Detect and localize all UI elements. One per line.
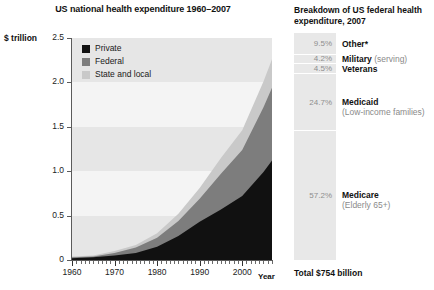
x-tick-major (157, 261, 158, 266)
x-tick-major (242, 261, 243, 266)
breakdown-label: Other* (342, 39, 434, 49)
x-tick-minor (187, 261, 188, 264)
x-tick-minor (268, 261, 269, 264)
y-tick-label: 2.0 (42, 77, 64, 86)
x-tick-minor (178, 261, 179, 264)
breakdown-label: Military (serving) (342, 54, 434, 64)
x-tick-minor (132, 261, 133, 264)
breakdown-label-name: Military (342, 54, 372, 64)
breakdown-label: Medicare(Elderly 65+) (342, 190, 434, 210)
x-tick-minor (195, 261, 196, 264)
x-tick-minor (136, 261, 137, 264)
y-axis-title: $ trillion (4, 33, 37, 43)
legend-label: State and local (95, 70, 151, 79)
y-tick-label: 0 (42, 255, 64, 264)
breakdown-title: Breakdown of US federal health expenditu… (294, 5, 432, 27)
x-tick-minor (76, 261, 77, 264)
x-tick-minor (204, 261, 205, 264)
legend-label: Federal (95, 57, 124, 66)
x-tick-minor (183, 261, 184, 264)
x-tick-label: 1980 (148, 267, 167, 277)
y-axis-line (71, 38, 72, 260)
x-tick-minor (217, 261, 218, 264)
y-tick (67, 127, 71, 128)
breakdown-percent: 57.2% (294, 191, 332, 200)
x-tick-minor (234, 261, 235, 264)
breakdown-label-name: Veterans (342, 64, 377, 74)
x-tick-minor (123, 261, 124, 264)
breakdown-percent: 4.5% (294, 64, 332, 73)
x-tick-minor (221, 261, 222, 264)
x-tick-minor (106, 261, 107, 264)
x-axis-title: Year (258, 272, 275, 281)
x-tick-minor (166, 261, 167, 264)
x-tick-minor (246, 261, 247, 264)
x-tick-minor (140, 261, 141, 264)
x-tick-minor (161, 261, 162, 264)
breakdown-total: Total $754 billion (294, 268, 362, 278)
y-tick-label: 1.5 (42, 122, 64, 131)
x-tick-minor (98, 261, 99, 264)
y-tick (67, 38, 71, 39)
x-tick-minor (110, 261, 111, 264)
y-tick (67, 171, 71, 172)
breakdown-label: Medicaid(Low-income families) (342, 97, 434, 117)
x-tick-label: 1990 (190, 267, 209, 277)
x-tick-minor (102, 261, 103, 264)
y-tick (67, 82, 71, 83)
legend-item: Private (82, 43, 151, 54)
national-health-expenditure-chart: US national health expenditure 1960–2007… (0, 0, 286, 290)
x-tick-minor (170, 261, 171, 264)
x-tick-minor (153, 261, 154, 264)
breakdown-label-name: Medicaid (342, 97, 378, 107)
legend-item: Federal (82, 56, 151, 67)
y-tick-label: 2.5 (42, 33, 64, 42)
x-tick-minor (119, 261, 120, 264)
x-tick-minor (212, 261, 213, 264)
x-tick-minor (89, 261, 90, 264)
breakdown-label-name: Other* (342, 39, 368, 49)
breakdown-label: Veterans (342, 64, 434, 74)
breakdown-label-sub: (Low-income families) (342, 107, 425, 117)
breakdown-label-sub: (serving) (374, 54, 407, 64)
x-tick-minor (191, 261, 192, 264)
legend-item: State and local (82, 69, 151, 80)
x-tick-minor (144, 261, 145, 264)
x-tick-label: 1970 (105, 267, 124, 277)
y-tick-label: 0.5 (42, 211, 64, 220)
x-tick-minor (81, 261, 82, 264)
x-tick-minor (93, 261, 94, 264)
x-tick-major (115, 261, 116, 266)
x-tick-minor (127, 261, 128, 264)
x-tick-minor (85, 261, 86, 264)
y-tick (67, 216, 71, 217)
x-tick-minor (255, 261, 256, 264)
breakdown-percent: 24.7% (294, 98, 332, 107)
x-tick-label: 1960 (63, 267, 82, 277)
x-tick-minor (238, 261, 239, 264)
legend-swatch-icon (82, 45, 90, 53)
y-tick-label: 1.0 (42, 166, 64, 175)
x-tick-minor (208, 261, 209, 264)
chart-title: US national health expenditure 1960–2007 (0, 4, 286, 14)
x-tick-minor (225, 261, 226, 264)
breakdown-label-sub: (Elderly 65+) (342, 200, 390, 210)
legend-swatch-icon (82, 71, 90, 79)
federal-breakdown-panel: Breakdown of US federal health expenditu… (290, 0, 434, 290)
x-tick-major (200, 261, 201, 266)
chart-legend: PrivateFederalState and local (78, 40, 157, 85)
x-tick-minor (259, 261, 260, 264)
x-tick-minor (272, 261, 273, 264)
x-tick-minor (149, 261, 150, 264)
x-tick-minor (229, 261, 230, 264)
legend-swatch-icon (82, 58, 90, 66)
x-tick-minor (263, 261, 264, 264)
x-tick-minor (174, 261, 175, 264)
breakdown-percent: 4.2% (294, 54, 332, 63)
legend-label: Private (95, 44, 121, 53)
x-tick-major (72, 261, 73, 266)
breakdown-percent: 9.5% (294, 39, 332, 48)
x-tick-label: 2000 (233, 267, 252, 277)
x-tick-minor (251, 261, 252, 264)
y-tick (67, 260, 71, 261)
